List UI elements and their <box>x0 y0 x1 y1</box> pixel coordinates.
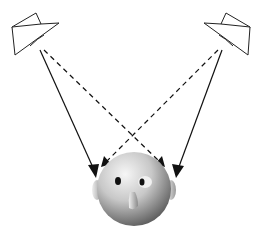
right-speaker <box>204 13 250 55</box>
left-eye <box>115 177 121 185</box>
stereo-crosstalk-diagram <box>0 0 263 233</box>
crosstalk-paths <box>44 50 218 162</box>
left-speaker <box>12 13 59 55</box>
head <box>97 152 171 226</box>
right-eye <box>140 179 145 186</box>
